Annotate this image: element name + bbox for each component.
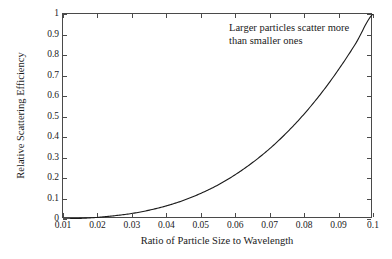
- y-tick-mark: [63, 117, 67, 118]
- y-tick-mark: [367, 35, 371, 36]
- y-tick-label: 0.3: [47, 153, 59, 163]
- x-tick-label: 0.07: [261, 221, 278, 231]
- y-tick-mark: [63, 199, 67, 200]
- x-tick-mark: [304, 213, 305, 217]
- x-tick-mark: [201, 213, 202, 217]
- x-tick-label: 0.09: [330, 221, 347, 231]
- y-tick-mark: [367, 158, 371, 159]
- x-tick-mark: [166, 14, 167, 18]
- y-tick-label: 0.1: [47, 194, 59, 204]
- y-tick-label: 0.6: [47, 91, 59, 101]
- y-tick-mark: [63, 158, 67, 159]
- x-tick-mark: [235, 14, 236, 18]
- scattering-efficiency-chart: 00.10.20.30.40.50.60.70.80.91 0.010.020.…: [0, 0, 392, 259]
- y-tick-mark: [367, 137, 371, 138]
- x-tick-label: 0.06: [227, 221, 244, 231]
- y-tick-label: 1: [54, 9, 59, 19]
- x-tick-mark: [235, 213, 236, 217]
- x-tick-label: 0.1: [367, 221, 379, 231]
- annotation-line-2: than smaller ones: [229, 34, 349, 47]
- y-tick-mark: [367, 199, 371, 200]
- y-tick-label: 0.9: [47, 30, 59, 40]
- x-tick-mark: [270, 213, 271, 217]
- y-tick-mark: [367, 96, 371, 97]
- y-tick-mark: [367, 178, 371, 179]
- plot-area: 00.10.20.30.40.50.60.70.80.91 0.010.020.…: [62, 13, 372, 218]
- y-tick-label: 0.7: [47, 71, 59, 81]
- y-tick-mark: [367, 55, 371, 56]
- x-tick-mark: [201, 14, 202, 18]
- x-tick-mark: [304, 14, 305, 18]
- x-tick-mark: [63, 213, 64, 217]
- x-tick-mark: [270, 14, 271, 18]
- x-tick-mark: [132, 213, 133, 217]
- x-tick-mark: [339, 14, 340, 18]
- x-tick-label: 0.03: [124, 221, 141, 231]
- x-tick-mark: [97, 213, 98, 217]
- x-tick-mark: [132, 14, 133, 18]
- x-tick-mark: [63, 14, 64, 18]
- x-tick-mark: [373, 213, 374, 217]
- x-tick-mark: [97, 14, 98, 18]
- annotation-line-1: Larger particles scatter more: [229, 21, 349, 34]
- y-tick-label: 0.8: [47, 50, 59, 60]
- x-tick-mark: [166, 213, 167, 217]
- y-axis-title: Relative Scattering Efficiency: [14, 13, 28, 218]
- x-tick-label: 0.01: [55, 221, 72, 231]
- y-tick-mark: [63, 137, 67, 138]
- annotation-scatter-note: Larger particles scatter morethan smalle…: [229, 21, 349, 47]
- y-tick-mark: [367, 117, 371, 118]
- x-axis-title: Ratio of Particle Size to Wavelength: [62, 236, 372, 247]
- y-tick-mark: [63, 55, 67, 56]
- x-tick-mark: [373, 14, 374, 18]
- x-tick-mark: [339, 213, 340, 217]
- y-tick-label: 0.2: [47, 173, 59, 183]
- y-tick-label: 0.4: [47, 132, 59, 142]
- y-tick-mark: [63, 96, 67, 97]
- y-tick-mark: [367, 14, 371, 15]
- y-tick-mark: [63, 178, 67, 179]
- x-tick-label: 0.05: [192, 221, 209, 231]
- y-tick-label: 0.5: [47, 112, 59, 122]
- y-tick-mark: [63, 76, 67, 77]
- y-tick-mark: [367, 76, 371, 77]
- y-tick-mark: [63, 35, 67, 36]
- x-tick-label: 0.08: [296, 221, 313, 231]
- x-tick-label: 0.04: [158, 221, 175, 231]
- x-tick-label: 0.02: [89, 221, 106, 231]
